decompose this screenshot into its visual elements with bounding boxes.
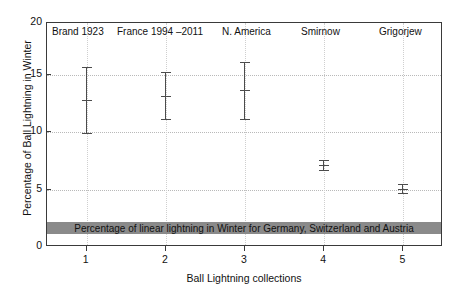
x-tick-mark-3 xyxy=(244,246,245,251)
x-tick-label-5: 5 xyxy=(387,254,417,265)
x-tick-mark-4 xyxy=(323,246,324,251)
x-tick-mark-1 xyxy=(86,246,87,251)
y-axis-title: Percentage of Ball Lightning in Winter xyxy=(21,18,33,238)
x-tick-label-2: 2 xyxy=(150,254,180,265)
y-tick-label-0: 0 xyxy=(14,240,42,251)
y-tick-mark-5 xyxy=(46,189,51,190)
x-tick-mark-2 xyxy=(165,246,166,251)
y-axis: 20 15 10 5 0 1 2 3 4 5 xyxy=(0,0,453,296)
y-tick-mark-15 xyxy=(46,74,51,75)
chart-figure: Brand 1923 France 1994 –2011 N. America … xyxy=(0,0,453,296)
x-axis-title: Ball Lightning collections xyxy=(46,272,442,284)
y-tick-mark-10 xyxy=(46,131,51,132)
x-tick-label-3: 3 xyxy=(229,254,259,265)
x-tick-label-4: 4 xyxy=(308,254,338,265)
x-tick-mark-5 xyxy=(402,246,403,251)
x-tick-label-1: 1 xyxy=(71,254,101,265)
